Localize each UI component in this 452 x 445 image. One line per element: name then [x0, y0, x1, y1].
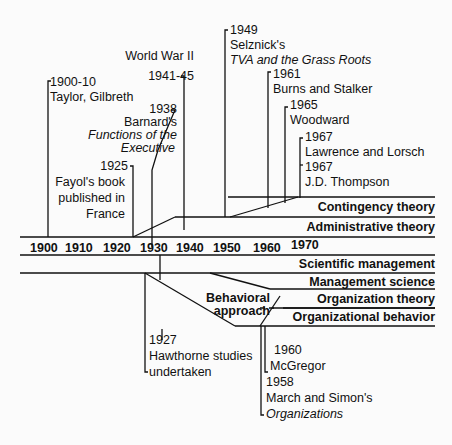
axis-year-1930: 1930	[140, 241, 168, 256]
event-1961-text: Burns and Stalker	[273, 82, 372, 97]
ww2-year: 1941-45	[110, 69, 194, 84]
axis-year-1950: 1950	[213, 241, 241, 256]
event-1967b-text: J.D. Thompson	[305, 175, 390, 190]
event-1949-l1: Selznick's	[230, 38, 285, 53]
band-organization-theory: Organization theory	[317, 292, 435, 307]
event-1949-l2: TVA and the Grass Roots	[230, 53, 371, 68]
band-scientific-management: Scientific management	[299, 257, 435, 272]
event-1925-l2: published in	[40, 191, 125, 206]
event-1938-l3: Executive	[80, 141, 175, 156]
axis-year-1910: 1910	[65, 241, 93, 256]
band-contingency-theory: Contingency theory	[318, 200, 435, 215]
event-1960-year: 1960	[274, 343, 302, 358]
event-1900-year: 1900-10	[50, 75, 96, 90]
event-1967a-text: Lawrence and Lorsch	[305, 145, 425, 160]
event-1927-l1: Hawthorne studies	[149, 349, 253, 364]
band-management-science: Management science	[309, 275, 435, 290]
ww2-label: World War II	[90, 49, 194, 64]
event-1965-text: Woodward	[290, 113, 350, 128]
event-1958-l2: Organizations	[266, 407, 343, 422]
event-1925-l1: Fayol's book	[40, 175, 125, 190]
event-1961-year: 1961	[273, 67, 301, 82]
axis-year-1920: 1920	[103, 241, 131, 256]
band-administrative-theory: Administrative theory	[306, 220, 435, 235]
event-1967a-year: 1967	[305, 130, 333, 145]
axis-year-1960: 1960	[253, 241, 281, 256]
event-1965-year: 1965	[290, 98, 318, 113]
event-1925-year: 1925	[40, 159, 128, 174]
event-1958-year: 1958	[266, 375, 294, 390]
axis-year-1900: 1900	[30, 241, 58, 256]
axis-year-1940: 1940	[176, 241, 204, 256]
event-1960-text: McGregor	[270, 359, 326, 374]
event-1967b-year: 1967	[305, 160, 333, 175]
event-1949-year: 1949	[230, 23, 258, 38]
event-1927-year: 1927	[149, 333, 177, 348]
event-1958-l1: March and Simon's	[266, 391, 373, 406]
band-behavioral-approach-2: approach	[190, 304, 270, 319]
event-1927-l2: undertaken	[149, 365, 212, 380]
band-organizational-behavior: Organizational behavior	[293, 310, 435, 325]
event-1925-l3: France	[40, 207, 125, 222]
axis-year-1970: 1970	[291, 238, 319, 253]
